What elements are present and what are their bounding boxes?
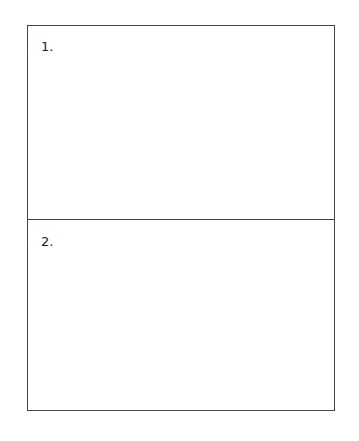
answer-section-1: 1. — [28, 26, 334, 219]
section-number-2: 2. — [41, 234, 53, 249]
answer-section-2: 2. — [28, 219, 334, 410]
answer-box: 1. 2. — [27, 25, 335, 411]
section-number-1: 1. — [41, 39, 53, 54]
